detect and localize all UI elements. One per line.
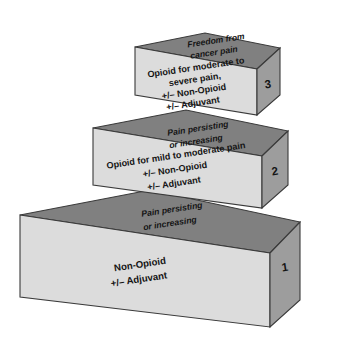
step-1-block: Pain persisting or increasing Non-Opioid… [20, 190, 300, 327]
step-3-block: Freedom from cancer pain Opioid for mode… [135, 31, 280, 115]
pain-ladder-illustration: Pain persisting or increasing Non-Opioid… [0, 0, 350, 342]
who-pain-ladder-diagram: Pain persisting or increasing Non-Opioid… [0, 0, 350, 342]
step-2-block: Pain persisting or increasing Opioid for… [93, 110, 288, 208]
